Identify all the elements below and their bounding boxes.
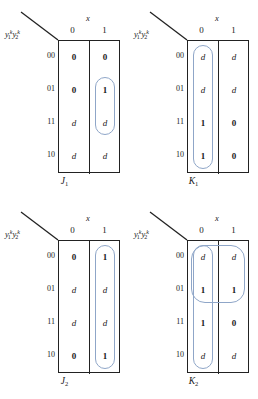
cell-c0-r10: d bbox=[59, 140, 89, 173]
kmap-J2: y1ky2k x 0 1 00 01 11 10 0 d d 0 1 d d 1… bbox=[0, 200, 129, 399]
cell-c0-r11: d bbox=[59, 107, 89, 140]
kmap-label-J2: J2 bbox=[0, 377, 129, 388]
cell-c0-r01: d bbox=[188, 74, 218, 107]
cell-c1-r00: 0 bbox=[90, 41, 120, 74]
cell-c0-r01: 0 bbox=[59, 74, 89, 107]
kmap-label-J1: J1 bbox=[0, 177, 129, 188]
cell-c1-r01: 1 bbox=[219, 274, 249, 307]
cell-c1-r11: d bbox=[90, 307, 120, 340]
kmap-label-K2: K2 bbox=[129, 377, 258, 388]
column-header-0: 0 bbox=[186, 226, 217, 235]
row-header-01: 01 bbox=[33, 285, 55, 293]
kmap-J1: y1ky2k x 0 1 00 01 11 10 0 0 d d 0 1 d d… bbox=[0, 0, 129, 199]
axis-divider-slash-icon bbox=[150, 12, 190, 48]
column-header-0: 0 bbox=[57, 26, 88, 35]
row-variable-label: y1ky2k bbox=[5, 229, 20, 240]
cell-c0-r01: d bbox=[59, 274, 89, 307]
row-header-01: 01 bbox=[33, 85, 55, 93]
cell-c0-r10: 0 bbox=[59, 340, 89, 373]
cell-c1-r01: d bbox=[90, 274, 120, 307]
cell-c1-r11: 0 bbox=[219, 307, 249, 340]
column-header-1: 1 bbox=[218, 26, 249, 35]
cell-c0-r11: 1 bbox=[188, 307, 218, 340]
cell-c0-r10: 1 bbox=[188, 140, 218, 173]
cell-c0-r00: d bbox=[188, 241, 218, 274]
row-header-11: 11 bbox=[33, 118, 55, 126]
row-variable-label: y1ky2k bbox=[134, 229, 149, 240]
cell-c0-r00: d bbox=[188, 41, 218, 74]
axis-divider-slash-icon bbox=[21, 212, 61, 248]
cell-c1-r00: 1 bbox=[90, 241, 120, 274]
column-variable-label: x bbox=[86, 14, 90, 23]
column-header-0: 0 bbox=[57, 226, 88, 235]
cell-c1-r00: d bbox=[219, 41, 249, 74]
row-header-00: 00 bbox=[162, 252, 184, 260]
row-header-10: 10 bbox=[33, 351, 55, 359]
kmap-label-K1: K1 bbox=[129, 177, 258, 188]
cell-c0-r10: d bbox=[188, 340, 218, 373]
cell-c1-r10: d bbox=[219, 340, 249, 373]
column-variable-label: x bbox=[215, 14, 219, 23]
row-header-01: 01 bbox=[162, 85, 184, 93]
cell-c1-r00: d bbox=[219, 241, 249, 274]
column-variable-label: x bbox=[215, 214, 219, 223]
row-header-11: 11 bbox=[33, 318, 55, 326]
kmap-table-K2: d 1 1 d d 1 0 d bbox=[187, 240, 249, 373]
axis-divider-slash-icon bbox=[150, 212, 190, 248]
cell-c1-r01: 1 bbox=[90, 74, 120, 107]
cell-c1-r11: 0 bbox=[219, 107, 249, 140]
row-header-11: 11 bbox=[162, 118, 184, 126]
column-header-0: 0 bbox=[186, 26, 217, 35]
column-header-1: 1 bbox=[89, 226, 120, 235]
row-header-00: 00 bbox=[33, 252, 55, 260]
karnaugh-map-figure: y1ky2k x 0 1 00 01 11 10 0 0 d d 0 1 d d… bbox=[0, 0, 258, 399]
row-variable-label: y1ky2k bbox=[5, 29, 20, 40]
row-header-11: 11 bbox=[162, 318, 184, 326]
column-variable-label: x bbox=[86, 214, 90, 223]
row-header-00: 00 bbox=[33, 52, 55, 60]
column-header-1: 1 bbox=[89, 26, 120, 35]
kmap-table-J1: 0 0 d d 0 1 d d bbox=[58, 40, 120, 173]
cell-c0-r00: 0 bbox=[59, 241, 89, 274]
cell-c0-r00: 0 bbox=[59, 41, 89, 74]
cell-c0-r11: 1 bbox=[188, 107, 218, 140]
row-header-00: 00 bbox=[162, 52, 184, 60]
cell-c1-r10: 0 bbox=[219, 140, 249, 173]
column-header-1: 1 bbox=[218, 226, 249, 235]
kmap-table-J2: 0 d d 0 1 d d 1 bbox=[58, 240, 120, 373]
kmap-table-K1: d d 1 1 d d 0 0 bbox=[187, 40, 249, 173]
axis-divider-slash-icon bbox=[21, 12, 61, 48]
row-header-10: 10 bbox=[33, 151, 55, 159]
row-header-10: 10 bbox=[162, 351, 184, 359]
row-header-01: 01 bbox=[162, 285, 184, 293]
kmap-K2: y1ky2k x 0 1 00 01 11 10 d 1 1 d d 1 0 d… bbox=[129, 200, 258, 399]
cell-c1-r01: d bbox=[219, 74, 249, 107]
cell-c0-r11: d bbox=[59, 307, 89, 340]
cell-c1-r11: d bbox=[90, 107, 120, 140]
row-variable-label: y1ky2k bbox=[134, 29, 149, 40]
cell-c1-r10: 1 bbox=[90, 340, 120, 373]
row-header-10: 10 bbox=[162, 151, 184, 159]
cell-c0-r01: 1 bbox=[188, 274, 218, 307]
cell-c1-r10: d bbox=[90, 140, 120, 173]
kmap-K1: y1ky2k x 0 1 00 01 11 10 d d 1 1 d d 0 0… bbox=[129, 0, 258, 199]
